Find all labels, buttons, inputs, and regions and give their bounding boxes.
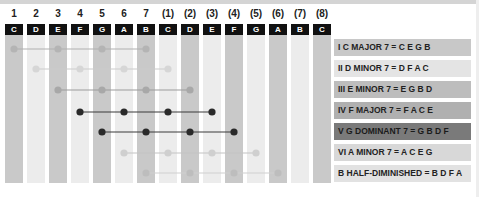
chord-label: IV F MAJOR 7 = F A C E	[334, 102, 471, 119]
degree-number: 1	[3, 8, 25, 19]
top-border-strip	[0, 0, 479, 4]
degree-number: 5	[91, 8, 113, 19]
degree-number: (3)	[201, 8, 223, 19]
note-header: G	[247, 24, 265, 35]
chord-label: I C MAJOR 7 = C E G B	[334, 39, 471, 56]
degree-number: 4	[69, 8, 91, 19]
note-header: G	[93, 24, 111, 35]
column-bar	[27, 35, 45, 183]
column-bar	[291, 35, 309, 183]
degree-number: (1)	[157, 8, 179, 19]
chord-label: VI A MINOR 7 = A C E G	[334, 144, 471, 161]
column-bar	[247, 35, 265, 183]
note-header: D	[27, 24, 45, 35]
chord-label: III E MINOR 7 = E G B D	[334, 81, 471, 98]
degree-number: 2	[25, 8, 47, 19]
column-bar	[93, 35, 111, 183]
column-bar	[5, 35, 23, 183]
column-bar	[71, 35, 89, 183]
note-header: E	[203, 24, 221, 35]
note-header: A	[269, 24, 287, 35]
note-header: C	[5, 24, 23, 35]
column-bar	[115, 35, 133, 183]
column-bar	[269, 35, 287, 183]
degree-number: 6	[113, 8, 135, 19]
column-bar	[137, 35, 155, 183]
chord-label: II D MINOR 7 = D F A C	[334, 60, 471, 77]
note-header: D	[181, 24, 199, 35]
chord-label-list: I C MAJOR 7 = C E G BII D MINOR 7 = D F …	[334, 39, 471, 186]
degree-number: (7)	[289, 8, 311, 19]
degree-number: (5)	[245, 8, 267, 19]
column-bar	[159, 35, 177, 183]
note-header: F	[225, 24, 243, 35]
note-header: F	[71, 24, 89, 35]
note-header: E	[49, 24, 67, 35]
degree-number: (2)	[179, 8, 201, 19]
note-header: C	[313, 24, 331, 35]
note-header: C	[159, 24, 177, 35]
column-bar	[313, 35, 331, 183]
note-header: B	[291, 24, 309, 35]
note-header: B	[137, 24, 155, 35]
column-bar	[203, 35, 221, 183]
degree-number: (4)	[223, 8, 245, 19]
degree-number: 7	[135, 8, 157, 19]
column-bar	[181, 35, 199, 183]
column-bar	[49, 35, 67, 183]
degree-number: (8)	[311, 8, 333, 19]
chord-label: B HALF-DIMINISHED = B D F A	[334, 165, 471, 182]
chord-label: V G DOMINANT 7 = G B D F	[334, 123, 471, 140]
column-bar	[225, 35, 243, 183]
degree-number: (6)	[267, 8, 289, 19]
degree-number: 3	[47, 8, 69, 19]
note-header: A	[115, 24, 133, 35]
